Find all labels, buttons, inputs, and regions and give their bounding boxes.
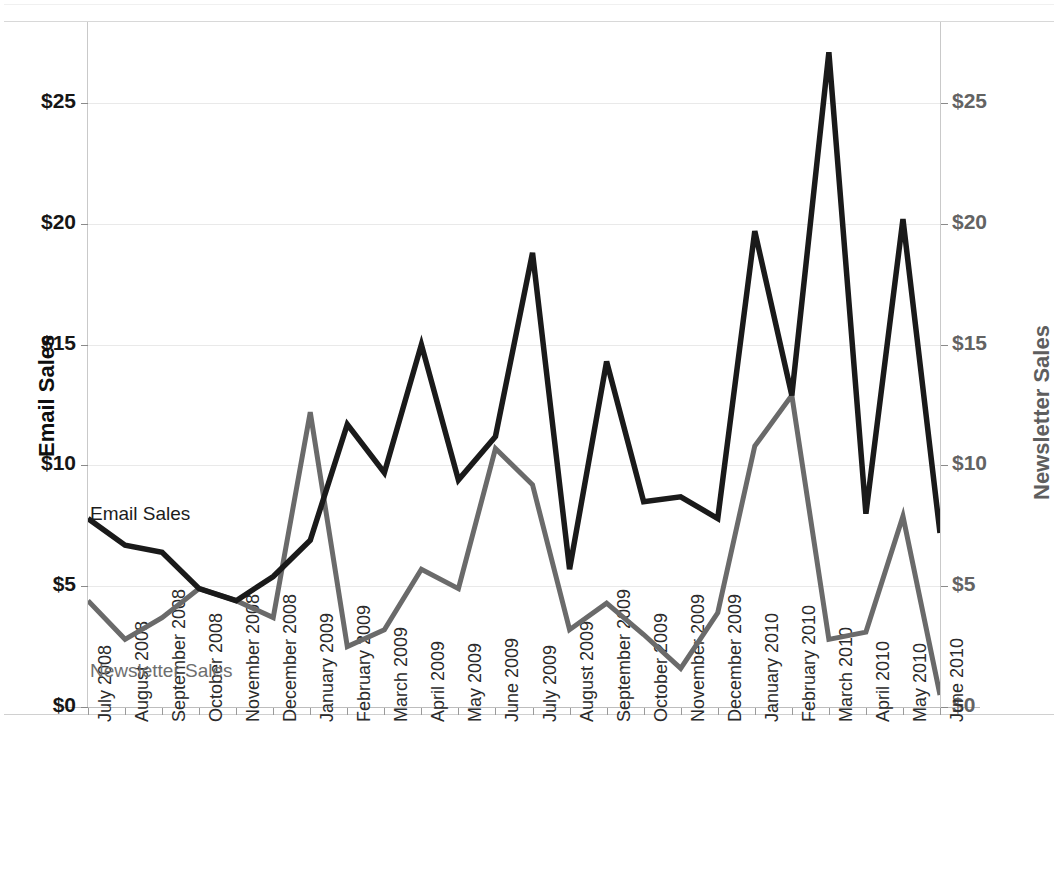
series-lines (88, 22, 940, 707)
y-axis-left-tick-label: $25 (0, 89, 76, 113)
x-axis-tick (199, 708, 200, 715)
x-axis-tick (495, 708, 496, 715)
x-axis-tick (570, 708, 571, 715)
y-axis-left-tick-label: $0 (0, 693, 76, 717)
x-axis-tick (681, 708, 682, 715)
x-axis-tick (162, 708, 163, 715)
x-axis-tick (866, 708, 867, 715)
y-axis-left-tick-label: $20 (0, 210, 76, 234)
x-axis-tick (273, 708, 274, 715)
x-axis-tick (533, 708, 534, 715)
x-axis-tick-label: June 2010 (947, 638, 968, 722)
y-axis-right-tick-label: $5 (952, 572, 1032, 596)
x-axis-tick (384, 708, 385, 715)
y-axis-right-tick (941, 586, 948, 587)
y-axis-left-tick (81, 224, 88, 225)
y-axis-left-tick (81, 707, 88, 708)
x-axis-tick (903, 708, 904, 715)
y-axis-left-tick (81, 586, 88, 587)
y-axis-left-tick (81, 345, 88, 346)
x-axis-tick (236, 708, 237, 715)
x-axis-tick (607, 708, 608, 715)
y-axis-right-tick-label: $15 (952, 331, 1032, 355)
email-sales-annotation: Email Sales (90, 503, 190, 525)
y-axis-right-tick (941, 224, 948, 225)
x-axis-tick (88, 708, 89, 715)
y-axis-right-tick-label: $20 (952, 210, 1032, 234)
x-axis-tick (644, 708, 645, 715)
y-axis-left-tick (81, 103, 88, 104)
y-axis-left-tick-label: $5 (0, 572, 76, 596)
x-axis-tick (792, 708, 793, 715)
y-axis-right-tick (941, 103, 948, 104)
x-axis-tick (940, 708, 941, 715)
y-axis-left-title: Email Sales (34, 335, 60, 457)
y-axis-right-tick-label: $10 (952, 451, 1032, 475)
y-axis-right-tick-label: $25 (952, 89, 1032, 113)
line-chart: $0$5$10$15$20$25 $0$5$10$15$20$25 July 2… (0, 0, 1059, 869)
y-axis-right-line (940, 22, 941, 708)
x-axis-tick (718, 708, 719, 715)
x-axis-tick (310, 708, 311, 715)
y-axis-right-tick (941, 465, 948, 466)
newsletter-sales-line (88, 395, 940, 695)
y-axis-right-title: Newsletter Sales (1029, 325, 1055, 500)
x-axis-tick (458, 708, 459, 715)
y-axis-right-tick (941, 345, 948, 346)
x-axis-tick (755, 708, 756, 715)
newsletter-sales-annotation: Newsletter Sales (90, 660, 233, 682)
x-axis-tick (347, 708, 348, 715)
top-hairline-outer (4, 4, 1054, 5)
x-axis-tick (829, 708, 830, 715)
x-axis-tick (421, 708, 422, 715)
y-axis-left-tick (81, 465, 88, 466)
plot-area (88, 22, 940, 707)
x-axis-tick (125, 708, 126, 715)
